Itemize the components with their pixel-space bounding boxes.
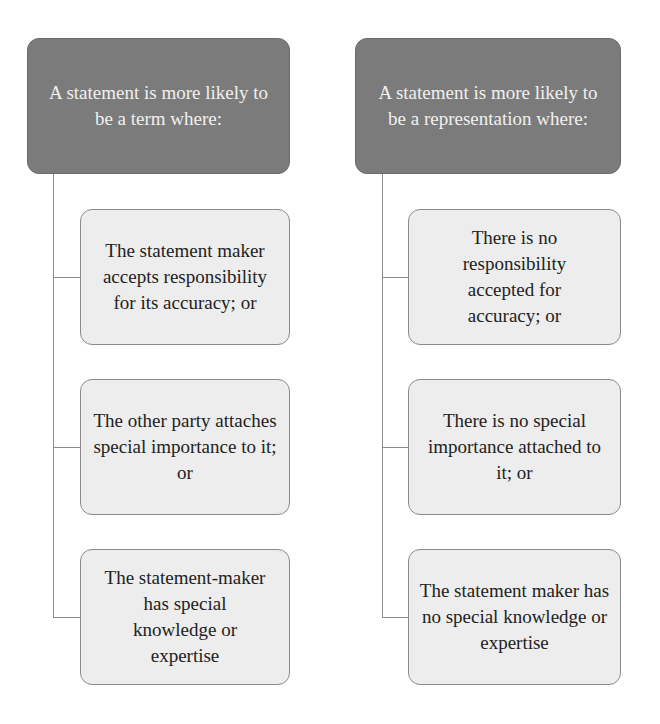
representation-connector-1 [382,277,408,278]
term-header-box: A statement is more likely to be a term … [27,38,290,174]
representation-header-box: A statement is more likely to be a repre… [355,38,621,174]
representation-connector-vertical [382,174,383,617]
representation-connector-3 [382,617,408,618]
term-item-importance: The other party attaches special importa… [80,379,290,515]
representation-item-text: There is no special importance attached … [420,408,610,486]
representation-header-text: A statement is more likely to be a repre… [368,80,608,132]
term-header-text: A statement is more likely to be a term … [46,80,271,132]
term-item-knowledge: The statement-maker has special knowledg… [80,549,290,685]
term-connector-vertical [53,174,54,617]
term-item-responsibility: The statement maker accepts responsibili… [80,209,290,345]
term-connector-1 [53,277,80,278]
term-connector-3 [53,617,80,618]
term-item-text: The statement-maker has special knowledg… [100,565,270,669]
representation-item-importance: There is no special importance attached … [408,379,621,515]
term-item-text: The other party attaches special importa… [91,408,279,486]
representation-connector-2 [382,447,408,448]
term-connector-2 [53,447,80,448]
representation-item-responsibility: There is no responsibility accepted for … [408,209,621,345]
representation-item-knowledge: The statement maker has no special knowl… [408,549,621,685]
representation-item-text: The statement maker has no special knowl… [419,578,610,656]
term-item-text: The statement maker accepts responsibili… [91,238,279,316]
representation-item-text: There is no responsibility accepted for … [445,225,585,329]
